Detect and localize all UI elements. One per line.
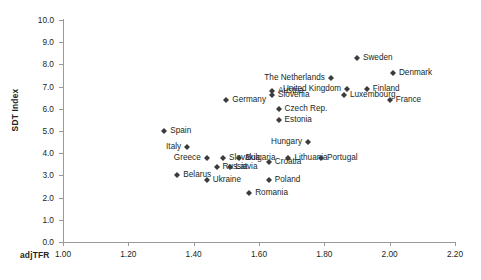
diamond-marker-icon bbox=[174, 172, 180, 178]
data-point-label: Italy bbox=[166, 143, 181, 151]
x-tick-mark bbox=[63, 242, 64, 246]
diamond-marker-icon bbox=[223, 97, 229, 103]
diamond-marker-icon bbox=[390, 70, 396, 76]
x-tick-label: 2.00 bbox=[370, 250, 410, 258]
data-point-label: The Netherlands bbox=[264, 74, 325, 82]
y-axis-line bbox=[63, 19, 64, 243]
data-point-label: Spain bbox=[170, 127, 191, 135]
diamond-marker-icon bbox=[246, 190, 252, 196]
y-tick-label: 0.0 bbox=[20, 238, 54, 246]
diamond-marker-icon bbox=[341, 92, 347, 98]
y-tick-label: 3.0 bbox=[20, 171, 54, 179]
x-tick-label: 1.00 bbox=[43, 250, 83, 258]
data-point-label: Hungary bbox=[271, 138, 302, 146]
data-point-label: Denmark bbox=[399, 69, 432, 77]
x-tick-mark bbox=[324, 242, 325, 246]
diamond-marker-icon bbox=[236, 155, 242, 161]
y-tick-label: 8.0 bbox=[20, 60, 54, 68]
diamond-marker-icon bbox=[227, 164, 233, 170]
x-tick-label: 1.80 bbox=[304, 250, 344, 258]
diamond-marker-icon bbox=[269, 92, 275, 98]
y-tick-mark bbox=[59, 87, 63, 88]
diamond-marker-icon bbox=[354, 55, 360, 61]
x-tick-mark bbox=[259, 242, 260, 246]
diamond-marker-icon bbox=[328, 75, 334, 81]
data-point-label: Poland bbox=[275, 176, 301, 184]
y-tick-label: 6.0 bbox=[20, 105, 54, 113]
data-point-label: Slovenia bbox=[278, 91, 309, 99]
data-point-label: Luxembourg bbox=[350, 91, 396, 99]
y-tick-mark bbox=[59, 64, 63, 65]
diamond-marker-icon bbox=[220, 155, 226, 161]
y-tick-label: 4.0 bbox=[20, 149, 54, 157]
data-point-label: Czech Rep. bbox=[285, 105, 328, 113]
y-tick-mark bbox=[59, 131, 63, 132]
y-tick-label: 5.0 bbox=[20, 127, 54, 135]
data-point-label: Germany bbox=[232, 96, 266, 104]
diamond-marker-icon bbox=[204, 155, 210, 161]
y-tick-label: 9.0 bbox=[20, 38, 54, 46]
x-tick-label: 1.60 bbox=[239, 250, 279, 258]
y-tick-label: 10.0 bbox=[20, 16, 54, 24]
data-point-label: Croatia bbox=[275, 158, 301, 166]
data-point-label: Latvia bbox=[236, 163, 258, 171]
y-tick-mark bbox=[59, 198, 63, 199]
y-tick-label: 7.0 bbox=[20, 83, 54, 91]
x-tick-mark bbox=[128, 242, 129, 246]
x-tick-mark bbox=[390, 242, 391, 246]
x-tick-label: 2.20 bbox=[435, 250, 475, 258]
x-tick-mark bbox=[455, 242, 456, 246]
x-tick-mark bbox=[194, 242, 195, 246]
y-tick-mark bbox=[59, 220, 63, 221]
data-point-label: Estonia bbox=[285, 116, 312, 124]
data-point-label: Romania bbox=[255, 189, 288, 197]
y-tick-label: 1.0 bbox=[20, 216, 54, 224]
diamond-marker-icon bbox=[276, 106, 282, 112]
data-point-label: France bbox=[396, 96, 421, 104]
y-tick-mark bbox=[59, 20, 63, 21]
diamond-marker-icon bbox=[266, 159, 272, 165]
data-point-label: Greece bbox=[174, 154, 201, 162]
y-tick-label: 2.0 bbox=[20, 194, 54, 202]
y-tick-mark bbox=[59, 109, 63, 110]
y-tick-mark bbox=[59, 175, 63, 176]
y-tick-mark bbox=[59, 153, 63, 154]
x-tick-label: 1.20 bbox=[108, 250, 148, 258]
diamond-marker-icon bbox=[266, 177, 272, 183]
data-point-label: Portugal bbox=[327, 154, 358, 162]
diamond-marker-icon bbox=[204, 177, 210, 183]
x-tick-label: 1.40 bbox=[174, 250, 214, 258]
data-point-label: Sweden bbox=[363, 54, 393, 62]
diamond-marker-icon bbox=[214, 164, 220, 170]
y-axis-title: SDT Index bbox=[10, 89, 20, 132]
diamond-marker-icon bbox=[318, 155, 324, 161]
scatter-chart: SDT Index adjTFR 0.01.02.03.04.05.06.07.… bbox=[0, 0, 481, 280]
diamond-marker-icon bbox=[276, 117, 282, 123]
y-tick-mark bbox=[59, 42, 63, 43]
diamond-marker-icon bbox=[184, 144, 190, 150]
diamond-marker-icon bbox=[161, 128, 167, 134]
diamond-marker-icon bbox=[305, 139, 311, 145]
data-point-label: Ukraine bbox=[213, 176, 241, 184]
